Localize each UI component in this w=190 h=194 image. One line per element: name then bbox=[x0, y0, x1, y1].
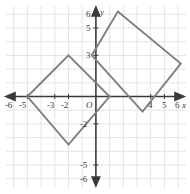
x-tick-label-neg5: -5 bbox=[19, 101, 26, 110]
y-tick-label-5: 5 bbox=[86, 24, 90, 33]
y-tick-label-3: 3 bbox=[86, 51, 90, 60]
plot-canvas bbox=[0, 0, 190, 194]
x-axis-label: x bbox=[182, 101, 186, 110]
coordinate-plane-figure: -6 -5 -3 -2 4 5 6 6 5 3 -2 -5 -6 O x y bbox=[0, 0, 190, 194]
y-tick-label-neg6: -6 bbox=[80, 175, 87, 184]
x-tick-label-neg2: -2 bbox=[61, 101, 68, 110]
y-axis-label: y bbox=[100, 8, 104, 17]
x-tick-label-neg6: -6 bbox=[5, 101, 12, 110]
axes bbox=[6, 7, 184, 186]
x-tick-label-4: 4 bbox=[148, 101, 152, 110]
x-tick-label-neg3: -3 bbox=[47, 101, 54, 110]
x-tick-label-6: 6 bbox=[175, 101, 179, 110]
y-tick-label-6: 6 bbox=[86, 10, 90, 19]
y-tick-label-neg2: -2 bbox=[80, 120, 87, 129]
origin-label: O bbox=[86, 101, 93, 110]
y-tick-label-neg5: -5 bbox=[80, 161, 87, 170]
x-tick-label-5: 5 bbox=[162, 101, 166, 110]
